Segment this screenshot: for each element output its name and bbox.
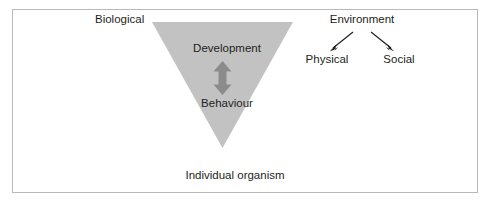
label-development: Development	[193, 43, 261, 55]
label-behaviour: Behaviour	[201, 98, 253, 110]
arrow-environment-to-physical	[330, 32, 353, 51]
figure-container: Biological Development Behaviour Individ…	[0, 0, 492, 207]
label-social: Social	[383, 54, 414, 66]
label-physical: Physical	[306, 54, 349, 66]
label-biological: Biological	[95, 14, 144, 26]
label-environment: Environment	[330, 14, 395, 26]
arrow-environment-to-social	[371, 32, 394, 51]
label-individual-organism: Individual organism	[185, 170, 284, 182]
